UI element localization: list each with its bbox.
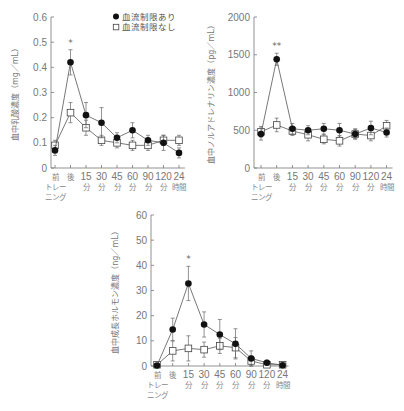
x-tick-label: トレー [147, 381, 168, 390]
y-tick-label: 20 [136, 310, 148, 321]
x-tick-label: 前 [52, 172, 60, 182]
x-tick-label: 分 [185, 381, 193, 390]
x-tick-label: 90 [246, 369, 258, 380]
data-point-filled [98, 119, 105, 126]
x-tick-label: 分 [352, 183, 360, 192]
y-axis-label: 血中ノルアドレナリン濃度（pg／mL） [206, 21, 216, 163]
x-tick-label: 前 [154, 370, 162, 380]
x-tick-label: 後 [67, 172, 75, 182]
legend-label-with-restriction: 血流制限あり [122, 12, 176, 22]
x-tick-label: 時間 [172, 183, 186, 192]
significance-marker: * [186, 254, 191, 264]
x-tick-label: 60 [334, 171, 346, 182]
x-tick-label: 分 [263, 381, 271, 390]
x-tick-label: 分 [201, 381, 209, 390]
y-tick-label: 0.2 [33, 112, 47, 123]
data-point-filled [336, 127, 343, 134]
x-tick-label: トレー [251, 183, 272, 192]
data-point-open [169, 348, 176, 355]
x-tick-label: 前 [258, 172, 266, 182]
data-point-open [201, 346, 208, 353]
y-tick-label: 500 [233, 125, 250, 136]
x-tick-label: 24 [381, 171, 393, 182]
x-tick-label: 24 [173, 171, 185, 182]
x-tick-label: 分 [129, 183, 137, 192]
data-point-filled [185, 280, 192, 287]
data-point-filled [129, 127, 136, 134]
x-tick-label: 分 [160, 183, 168, 192]
y-tick-label: 40 [136, 260, 148, 271]
data-point-filled [264, 359, 271, 366]
x-tick-label: 120 [363, 171, 380, 182]
y-tick-label: 60 [136, 210, 148, 221]
data-point-open [321, 136, 328, 143]
data-point-open [129, 142, 136, 149]
lactate-chart: 00.10.20.30.40.50.6前トレーニング後15分30分45分60分9… [10, 12, 186, 203]
noradrenaline-chart: 0500100015002000前トレーニング後15分30分45分60分90分1… [206, 12, 394, 203]
data-point-open [67, 109, 74, 116]
y-tick-label: 2000 [228, 12, 251, 23]
x-tick-label: 120 [259, 369, 276, 380]
y-axis-label: 血中乳酸濃度（mg／mL） [10, 44, 20, 141]
x-tick-label: ニング [45, 192, 67, 202]
data-point-filled [217, 331, 224, 338]
filled-circle-icon [113, 14, 119, 20]
data-point-filled [289, 125, 296, 132]
significance-marker: ** [272, 41, 282, 51]
data-point-filled [169, 326, 176, 333]
x-tick-label: 24 [277, 369, 289, 380]
y-tick-label: 0.4 [33, 62, 47, 73]
x-tick-label: 45 [214, 369, 226, 380]
x-tick-label: 分 [248, 381, 256, 390]
x-tick-label: 分 [289, 183, 297, 192]
y-tick-label: 10 [136, 335, 148, 346]
data-point-open [273, 122, 280, 129]
x-tick-label: 15 [287, 171, 299, 182]
x-tick-label: ニング [251, 192, 273, 202]
y-tick-label: 0 [41, 163, 47, 174]
x-tick-label: ニング [147, 390, 169, 400]
y-tick-label: 0 [141, 361, 147, 372]
x-tick-label: 時間 [380, 183, 394, 192]
x-tick-label: 分 [367, 183, 375, 192]
x-tick-label: 分 [320, 183, 328, 192]
y-tick-label: 0.5 [33, 37, 47, 48]
data-point-filled [114, 135, 121, 142]
y-tick-label: 50 [136, 235, 148, 246]
x-tick-label: 60 [230, 369, 242, 380]
y-axis-label: 血中成長ホルモン濃度（ng／mL） [110, 227, 120, 353]
data-point-filled [154, 362, 161, 369]
data-point-filled [273, 56, 280, 63]
data-point-filled [258, 131, 265, 138]
data-point-filled [232, 341, 239, 348]
data-point-filled [201, 321, 208, 328]
x-tick-label: 後 [273, 172, 281, 182]
x-tick-label: 分 [114, 183, 122, 192]
data-point-filled [279, 362, 286, 369]
x-tick-label: 時間 [276, 381, 290, 390]
data-point-filled [52, 147, 59, 154]
significance-marker: * [68, 38, 73, 48]
x-tick-label: 120 [155, 171, 172, 182]
x-tick-label: 30 [96, 171, 108, 182]
x-tick-label: 分 [232, 381, 240, 390]
x-tick-label: 90 [142, 171, 154, 182]
x-tick-label: 分 [98, 183, 106, 192]
x-tick-label: 45 [318, 171, 330, 182]
x-tick-label: 30 [199, 369, 211, 380]
y-tick-label: 1000 [228, 87, 251, 98]
x-tick-label: 後 [169, 370, 177, 380]
x-tick-label: 分 [305, 183, 313, 192]
data-point-filled [248, 355, 255, 362]
data-point-open [336, 138, 343, 145]
y-tick-label: 30 [136, 285, 148, 296]
x-tick-label: 90 [350, 171, 362, 182]
data-point-filled [352, 131, 359, 138]
x-tick-label: トレー [45, 183, 66, 192]
data-point-filled [321, 125, 328, 132]
data-point-filled [305, 127, 312, 134]
x-tick-label: 60 [127, 171, 139, 182]
data-point-filled [368, 125, 375, 132]
x-tick-label: 15 [183, 369, 195, 380]
data-point-filled [83, 112, 90, 119]
